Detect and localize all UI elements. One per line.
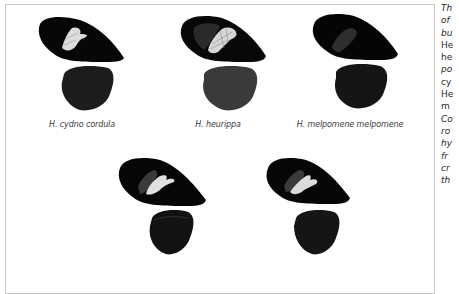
butterfly-wings-icon [266, 156, 356, 260]
caption-melpomene-melpomene: H. melpomene melpomene [297, 120, 404, 129]
text-line: ro [441, 125, 459, 137]
text-line: He [441, 39, 459, 51]
butterfly-wings-icon [118, 156, 208, 260]
butterfly-wings-icon [180, 14, 270, 114]
specimen-melpomene-melpomene [310, 12, 400, 112]
text-line: bu [441, 27, 459, 39]
text-line: Co [441, 113, 459, 125]
specimen-hybrid-2 [266, 156, 356, 260]
butterfly-wings-icon [310, 12, 400, 112]
text-line: of [441, 14, 459, 26]
text-line: th [441, 174, 459, 186]
text-line: He [441, 88, 459, 100]
specimen-heurippa [180, 14, 270, 114]
text-line: Th [441, 2, 459, 14]
text-line: hy [441, 137, 459, 149]
specimen-cydno-cordula [36, 14, 126, 114]
text-line: cy [441, 76, 459, 88]
text-line: cr [441, 162, 459, 174]
text-line: po [441, 63, 459, 75]
article-text-column: Th of bu He he po cy He m Co ro hy fr cr… [441, 2, 459, 186]
text-line: m [441, 100, 459, 112]
caption-heurippa: H. heurippa [195, 120, 241, 129]
specimen-hybrid-1 [118, 156, 208, 260]
butterfly-wings-icon [36, 14, 126, 114]
caption-cydno-cordula: H. cydno cordula [49, 120, 115, 129]
text-line: he [441, 51, 459, 63]
text-line: fr [441, 150, 459, 162]
